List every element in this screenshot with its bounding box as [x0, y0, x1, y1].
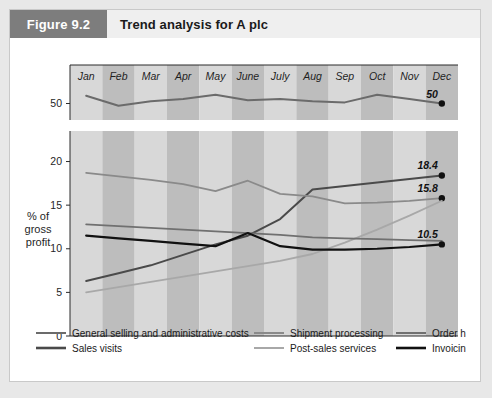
figure-number-badge: Figure 9.2 — [10, 10, 107, 38]
series-end-label-2: 15.8 — [417, 182, 438, 194]
month-label-july: July — [270, 70, 290, 82]
figure-card: Figure 9.2 Trend analysis for A plc 5005… — [9, 9, 481, 382]
month-label-nov: Nov — [400, 70, 419, 82]
y-tick-label: 50 — [50, 97, 62, 109]
legend-label-0-0: General selling and administrative costs — [72, 328, 249, 339]
month-label-apr: Apr — [174, 70, 192, 82]
y-axis-title: % ofgrossprofit — [25, 210, 52, 248]
series-end-marker-5 — [439, 241, 445, 247]
y-tick-label: 5 — [56, 286, 62, 298]
month-label-sep: Sep — [335, 70, 354, 82]
month-label-dec: Dec — [432, 70, 451, 82]
month-label-mar: Mar — [142, 70, 161, 82]
figure-title: Trend analysis for A plc — [120, 10, 268, 38]
month-band — [329, 131, 361, 336]
legend-label-1-1: Post-sales services — [290, 343, 376, 354]
month-band — [296, 131, 328, 336]
figure-header: Figure 9.2 Trend analysis for A plc — [10, 10, 480, 39]
month-band — [199, 131, 231, 336]
month-label-may: May — [206, 70, 227, 82]
y-tick-label: 10 — [50, 242, 62, 254]
series-end-marker-1 — [439, 172, 445, 178]
y-axis-title-line: % of — [27, 210, 50, 222]
month-label-oct: Oct — [369, 70, 386, 82]
legend-label-1-0: Shipment processing — [290, 328, 383, 339]
legend-svg: General selling and administrative costs… — [36, 324, 466, 360]
month-band — [70, 131, 102, 336]
month-label-june: June — [235, 70, 259, 82]
month-band — [135, 131, 167, 336]
y-tick-label: 20 — [50, 155, 62, 167]
legend-label-2-1: Invoicing — [432, 343, 466, 354]
series-end-label-0: 50 — [426, 88, 438, 100]
month-band — [167, 131, 199, 336]
month-label-jan: Jan — [77, 70, 95, 82]
y-axis-title-line: gross — [25, 223, 52, 235]
series-end-marker-0 — [439, 100, 445, 106]
y-tick-label: 15 — [50, 199, 62, 211]
legend-label-2-0: Order handling — [432, 328, 466, 339]
month-band — [102, 131, 134, 336]
series-end-label-1: 18.4 — [417, 159, 438, 171]
month-label-aug: Aug — [302, 70, 322, 82]
month-label-feb: Feb — [109, 70, 127, 82]
chart-legend: General selling and administrative costs… — [36, 324, 466, 360]
y-axis-title-line: profit — [26, 236, 50, 248]
series-end-label-5: 10.5 — [417, 228, 438, 240]
legend-label-0-1: Sales visits — [72, 343, 122, 354]
